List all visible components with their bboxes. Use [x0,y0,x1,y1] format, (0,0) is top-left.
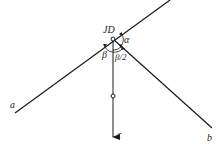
label-jd: JD [103,24,115,35]
label-c: c [117,129,122,140]
c-midpoint-marker [111,94,115,98]
label-half-beta: β/2 [114,52,127,62]
label-beta: β [101,49,107,60]
line-b [113,39,212,128]
label-alpha: α [124,34,130,45]
label-b: b [207,132,212,143]
jd-point [111,37,115,41]
line-a [15,0,170,113]
half-beta-arc [113,47,121,50]
label-a: a [10,99,15,110]
diagram-canvas: JD α β β/2 a b c [0,0,218,151]
